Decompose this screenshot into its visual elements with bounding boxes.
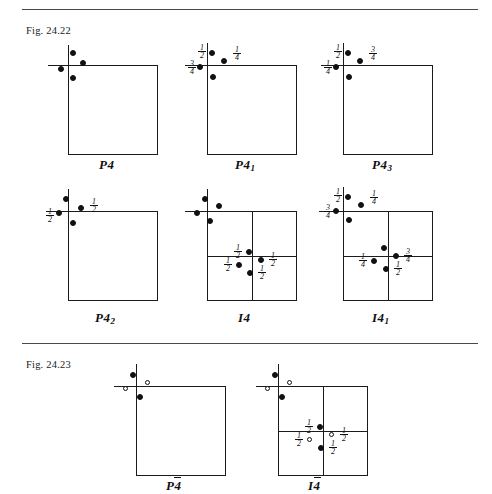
axis-line-vertical	[136, 364, 137, 392]
symmetry-point-filled	[80, 60, 86, 66]
symmetry-point-filled	[393, 253, 399, 259]
height-fraction-label: 12	[332, 188, 344, 204]
symmetry-point-filled	[317, 424, 323, 430]
fraction-denominator: 4	[186, 68, 198, 76]
symmetry-point-filled	[383, 266, 389, 272]
height-fraction-label: 34	[322, 204, 334, 220]
fraction-denominator: 2	[332, 196, 344, 204]
axis-line-vertical	[68, 45, 69, 71]
fraction-numerator: 3	[186, 60, 198, 67]
height-fraction-label: 34	[367, 46, 379, 62]
figure-caption-24-22: Fig. 24.22	[26, 25, 71, 36]
figure-caption-24-23: Fig. 24.23	[26, 359, 71, 370]
fraction-numerator: 1	[338, 427, 350, 434]
unit-cell-square	[68, 211, 158, 301]
fraction-denominator: 2	[88, 206, 100, 214]
symmetry-point-filled	[345, 50, 351, 56]
fraction-denominator: 2	[222, 265, 234, 273]
fraction-denominator: 2	[196, 52, 208, 60]
symmetry-point-filled	[209, 50, 215, 56]
fraction-numerator: 3	[402, 248, 414, 255]
unit-cell-square	[343, 65, 433, 155]
height-fraction-label: 34	[186, 60, 198, 76]
fraction-numerator: 1	[44, 208, 56, 215]
fraction-denominator: 4	[322, 68, 334, 76]
symmetry-point-filled	[247, 270, 253, 276]
symmetry-point-filled	[58, 66, 64, 72]
axis-line-vertical	[207, 189, 208, 217]
axis-line-vertical	[278, 364, 279, 392]
symmetry-point-filled	[210, 74, 216, 80]
fraction-numerator: 1	[368, 190, 380, 197]
cell-division-horizontal	[278, 431, 368, 432]
unit-cell-square	[207, 65, 297, 155]
fraction-denominator: 2	[256, 273, 268, 281]
symmetry-point-filled	[279, 394, 285, 400]
symmetry-point-filled	[70, 75, 76, 81]
symmetry-point-filled	[216, 203, 222, 209]
symmetry-point-filled	[130, 372, 136, 378]
symmetry-point-filled	[371, 258, 377, 264]
symmetry-point-filled	[345, 194, 351, 200]
symmetry-point-open	[123, 386, 128, 391]
symmetry-point-filled	[221, 58, 227, 64]
fraction-numerator: 1	[196, 44, 208, 51]
symmetry-point-filled	[63, 196, 69, 202]
symmetry-point-filled	[358, 202, 364, 208]
figure-page: Fig. 24.22 Fig. 24.23 P4121434P41123414P…	[0, 0, 492, 494]
height-fraction-label: 12	[327, 440, 339, 456]
fraction-denominator: 2	[338, 435, 350, 443]
height-fraction-label: 12	[88, 198, 100, 214]
symmetry-point-filled	[357, 58, 363, 64]
fraction-numerator: 1	[392, 261, 404, 268]
height-fraction-label: 12	[44, 208, 56, 224]
symmetry-point-filled	[236, 262, 242, 268]
symmetry-point-filled	[207, 218, 213, 224]
height-fraction-label: 14	[368, 190, 380, 206]
fraction-numerator: 1	[303, 419, 315, 426]
symmetry-point-filled	[246, 249, 252, 255]
space-group-label-i4: I4	[238, 310, 251, 326]
symmetry-point-filled	[194, 210, 200, 216]
fraction-numerator: 1	[322, 60, 334, 67]
cell-division-horizontal	[207, 256, 297, 257]
fraction-numerator: 1	[267, 252, 279, 259]
symmetry-point-filled	[78, 205, 84, 211]
fraction-numerator: 1	[256, 265, 268, 272]
fraction-numerator: 1	[332, 188, 344, 195]
symmetry-point-filled	[381, 245, 387, 251]
height-fraction-label: 14	[322, 60, 334, 76]
fraction-denominator: 4	[231, 54, 243, 62]
fraction-numerator: 1	[88, 198, 100, 205]
height-fraction-label: 14	[231, 46, 243, 62]
symmetry-point-filled	[258, 257, 264, 263]
axis-line-vertical	[68, 189, 69, 217]
symmetry-point-filled	[346, 217, 352, 223]
fraction-numerator: 1	[222, 257, 234, 264]
height-fraction-label: 12	[267, 252, 279, 268]
symmetry-point-filled	[56, 210, 62, 216]
fraction-denominator: 2	[327, 448, 339, 456]
height-fraction-label: 14	[357, 253, 369, 269]
symmetry-point-filled	[346, 74, 352, 80]
symmetry-point-filled	[318, 445, 324, 451]
fraction-denominator: 4	[368, 198, 380, 206]
symmetry-point-filled	[137, 394, 143, 400]
fraction-numerator: 1	[293, 432, 305, 439]
fraction-denominator: 4	[367, 54, 379, 62]
fraction-numerator: 1	[357, 253, 369, 260]
symmetry-point-filled	[272, 372, 278, 378]
fraction-denominator: 2	[267, 260, 279, 268]
fraction-numerator: 1	[232, 244, 244, 251]
space-group-label-p41: P41	[235, 157, 255, 173]
fraction-denominator: 4	[322, 212, 334, 220]
axis-line-horizontal	[256, 386, 284, 387]
space-group-label-ibar4: I4	[308, 478, 321, 494]
height-fraction-label: 12	[332, 44, 344, 60]
axis-line-horizontal	[114, 386, 142, 387]
fraction-numerator: 1	[332, 44, 344, 51]
unit-cell-square	[68, 65, 158, 155]
symmetry-point-open	[145, 380, 150, 385]
fraction-numerator: 1	[231, 46, 243, 53]
unit-cell-square	[136, 386, 226, 476]
